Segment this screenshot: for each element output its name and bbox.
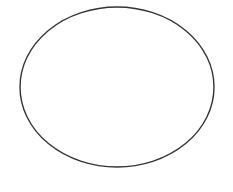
diagram-svg — [0, 0, 233, 192]
diagram-canvas — [0, 0, 233, 192]
ellipse-outline — [20, 7, 214, 167]
